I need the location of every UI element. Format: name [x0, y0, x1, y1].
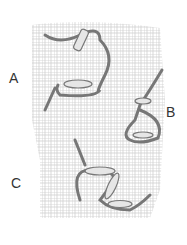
label-b: B [166, 104, 175, 120]
stitch-illustration: A B C [0, 0, 187, 245]
canvas-mesh-drawing [0, 0, 187, 245]
label-c: C [11, 175, 21, 191]
label-a: A [9, 70, 18, 86]
